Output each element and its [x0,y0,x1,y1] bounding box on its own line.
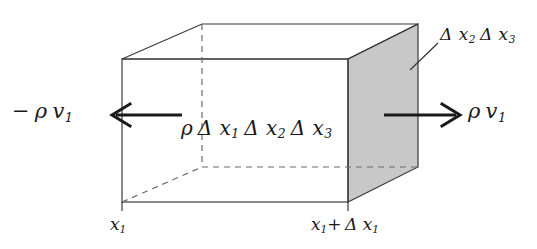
x-coordinate-left-label: x1 [110,216,126,234]
shaded-right-face [348,24,418,202]
hidden-edge-bottom-diagonal [122,167,202,202]
inflow-flux-label: − ρ v1 [12,101,74,124]
inflow-arrow [112,104,182,126]
volume-mass-label: ρ Δ x1 Δ x2 Δ x3 [181,118,333,141]
outflow-flux-label: ρ v1 [468,101,507,124]
face-area-label: Δ x2 Δ x3 [440,26,516,44]
x-coordinate-right-label: x1+ Δ x1 [311,216,379,234]
